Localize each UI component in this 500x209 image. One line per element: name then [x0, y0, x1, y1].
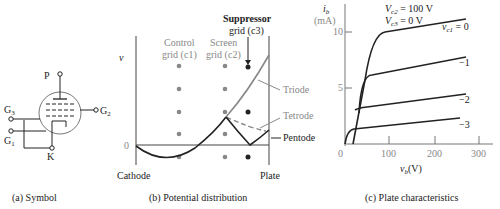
- pentode-label: Pentode: [283, 132, 316, 143]
- series-label-minus3: −3: [459, 119, 470, 130]
- panel-c-plate-characteristics: 10 5 0 100 200 300 ib (mA) vb(V) Vc2 = 1…: [314, 3, 493, 204]
- cathode-terminal: [50, 146, 54, 150]
- label-g1: G1: [4, 135, 15, 148]
- caption-a: (a) Symbol: [12, 192, 57, 204]
- x-tick-label-200: 200: [427, 148, 442, 159]
- v-axis-label: v: [119, 52, 124, 63]
- g3-terminal: [9, 117, 13, 121]
- screen-grid-label-2: grid (c2): [206, 49, 241, 61]
- common-curve: [136, 117, 226, 158]
- label-p: P: [44, 70, 50, 81]
- label-g2: G2: [100, 105, 111, 118]
- y-tick-label-10: 10: [333, 26, 343, 37]
- suppressor-grid-label-2: grid (c3): [229, 25, 264, 37]
- curve-vc1-minus2: [355, 94, 466, 110]
- cathode-electrode: [52, 121, 66, 130]
- g2-terminal: [94, 108, 98, 112]
- tetrode-label: Tetrode: [283, 110, 314, 121]
- plate-label: Plate: [260, 170, 281, 181]
- zero-label: 0: [124, 140, 129, 151]
- control-grid-label-2: grid (c1): [162, 49, 197, 61]
- g1-terminal: [9, 129, 13, 133]
- x-axis-label: vb(V): [400, 163, 422, 176]
- x-tick-label-100: 100: [381, 148, 396, 159]
- triode-curve: [226, 55, 269, 117]
- series-label-minus1: −1: [459, 57, 470, 68]
- label-g3: G3: [4, 104, 15, 117]
- panel-b-potential: v 0 Control grid (c1) Screen grid (c2) S…: [117, 13, 316, 204]
- tetrode-leader: [260, 118, 280, 128]
- panel-a-symbol: P G3 G1 G2 K (a) Symbol: [4, 70, 111, 204]
- triode-label: Triode: [283, 84, 310, 95]
- curve-vc1-0: [353, 19, 466, 144]
- series-label-minus2: −2: [459, 94, 470, 105]
- tube-figure: P G3 G1 G2 K (a) Symbol v 0 Control grid…: [0, 0, 500, 209]
- x-tick-label-0: 0: [338, 148, 343, 159]
- cathode-label: Cathode: [117, 170, 151, 181]
- curve-vc1-minus1: [359, 57, 466, 113]
- plate-terminal: [58, 72, 62, 76]
- y-tick-label-5: 5: [338, 82, 343, 93]
- y-axis-unit: (mA): [314, 15, 336, 27]
- suppressor-grid-label-1: Suppressor: [223, 13, 272, 24]
- g3-cathode-link: [24, 120, 50, 148]
- caption-c: (c) Plate characteristics: [365, 192, 458, 204]
- screen-grid-label-1: Screen: [210, 37, 237, 48]
- control-grid-label-1: Control: [164, 37, 195, 48]
- caption-b: (b) Potential distribution: [149, 192, 247, 204]
- pentode-curve: [226, 117, 269, 145]
- series-label-0: vc1 = 0: [442, 21, 469, 34]
- x-tick-label-300: 300: [471, 148, 486, 159]
- label-k: K: [47, 151, 55, 162]
- curve-vc1-minus3: [345, 118, 460, 144]
- suppressor-arrowhead-icon: [245, 60, 251, 65]
